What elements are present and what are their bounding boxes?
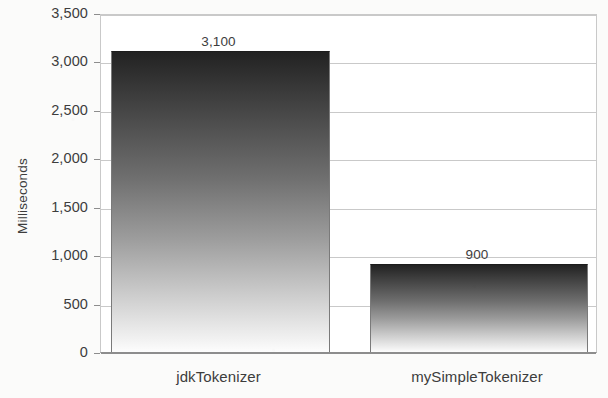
bar xyxy=(111,51,330,352)
y-axis-tick-label: 0 xyxy=(0,344,88,360)
y-axis-title-label: Milliseconds xyxy=(15,158,30,234)
y-axis-tick xyxy=(94,353,100,354)
gridline xyxy=(101,353,596,354)
bar-value-label: 3,100 xyxy=(110,34,327,49)
x-axis-category-label: mySimpleTokenizer xyxy=(339,368,608,385)
bar-chart: Milliseconds 05001,0001,5002,0002,5003,0… xyxy=(0,0,608,398)
x-axis-category-label: jdkTokenizer xyxy=(80,368,357,385)
y-axis-tick-label: 500 xyxy=(0,296,88,312)
bar-value-label: 900 xyxy=(369,247,585,262)
y-axis-title: Milliseconds xyxy=(0,0,1,1)
gridline xyxy=(101,15,596,16)
y-axis-tick-label: 3,000 xyxy=(0,53,88,69)
plot-area xyxy=(100,14,597,353)
y-axis-tick-label: 2,000 xyxy=(0,150,88,166)
y-axis-tick-label: 3,500 xyxy=(0,5,88,21)
y-axis-tick-label: 2,500 xyxy=(0,102,88,118)
y-axis-tick-label: 1,000 xyxy=(0,247,88,263)
y-axis-tick-label: 1,500 xyxy=(0,199,88,215)
bar xyxy=(370,264,588,352)
